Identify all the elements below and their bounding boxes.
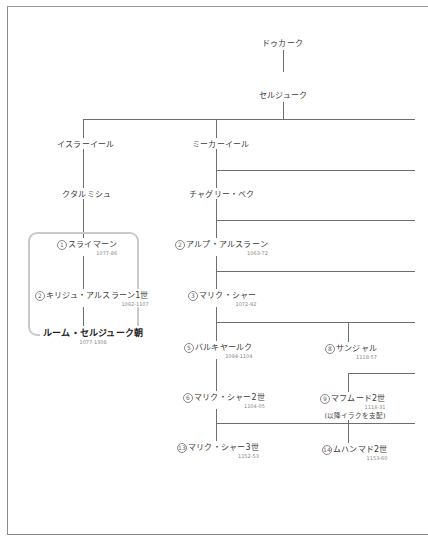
node-malik-shah-3: 13マリク・シャー3世 1152-53 <box>177 441 259 459</box>
node-malik-shah-1: 3マリク・シャー 1072-92 <box>188 289 256 307</box>
reign-years: 1118-57 <box>325 354 377 360</box>
node-name: ムハンマド2世 <box>333 445 388 454</box>
node-name: マリク・シャー <box>199 291 256 300</box>
node-alp-arslan: 2アルプ・アルスラーン 1063-72 <box>175 238 268 256</box>
line-sanjar <box>348 322 349 342</box>
node-name: マフムード2世 <box>331 394 386 403</box>
node-israil: イスラーイール <box>57 138 114 149</box>
node-name: クタルミシュ <box>62 188 111 199</box>
reign-years: 1094-1104 <box>184 353 252 359</box>
dynasty-years: 1077-1308 <box>43 339 143 345</box>
node-chaghri: チャグリー・ベク <box>189 188 255 199</box>
dynasty-name: ルーム・セルジューク朝 <box>43 326 143 339</box>
node-name: ドゥカーク <box>262 37 303 48</box>
node-barkiyaruq: 5バルキヤールク 1094-1104 <box>184 341 252 359</box>
node-name: スライマーン <box>68 240 117 249</box>
node-name: セルジューク <box>259 89 307 100</box>
ruler-number-badge: 13 <box>177 443 187 453</box>
ruler-number-badge: 2 <box>35 291 45 301</box>
reign-years: 1152-53 <box>177 453 259 459</box>
reign-years: 1104-05 <box>183 403 265 409</box>
node-seljuk: セルジューク <box>259 89 307 100</box>
ruler-number-badge: 8 <box>325 344 335 354</box>
reign-years: 1072-92 <box>188 301 256 307</box>
ruler-number-badge: 1 <box>57 240 67 250</box>
line-branch-3 <box>216 271 415 272</box>
node-qutalmish: クタルミシュ <box>62 188 111 199</box>
line-seljuk-down <box>283 102 284 120</box>
node-name: サンジャル <box>336 344 377 353</box>
line-seljuk-sons <box>83 119 415 120</box>
line-branch-2 <box>216 220 415 221</box>
node-name: マリク・シャー2世 <box>194 393 265 402</box>
reign-years: 1153-60 <box>322 455 388 461</box>
rule-note: (以降イラクを支配) <box>320 410 386 420</box>
node-mikail: ミーカーイール <box>192 138 249 149</box>
node-name: イスラーイール <box>57 138 114 149</box>
ruler-number-badge: 9 <box>320 394 330 404</box>
node-rum-seljuk: ルーム・セルジューク朝 1077-1308 <box>40 326 146 345</box>
node-name: アルプ・アルスラーン <box>186 240 268 249</box>
line-mahmud <box>348 373 349 393</box>
line-branch-6 <box>216 423 415 424</box>
reign-years: 1077-86 <box>57 250 117 256</box>
ruler-number-badge: 5 <box>184 343 194 353</box>
line-duqaq-seljuk <box>283 50 284 72</box>
line-branch-4 <box>216 322 415 323</box>
node-muhammad-2: 14ムハンマド2世 1153-60 <box>322 443 388 461</box>
node-name: チャグリー・ベク <box>189 188 255 199</box>
node-mahmud-2: 9マフムード2世 1118-31 (以降イラクを支配) <box>320 392 386 420</box>
node-suleyman: 1スライマーン 1077-86 <box>57 238 117 256</box>
reign-years: 1063-72 <box>175 250 268 256</box>
line-branch-5 <box>348 373 415 374</box>
node-name: ミーカーイール <box>192 138 249 149</box>
node-name: マリク・シャー3世 <box>188 443 259 452</box>
reign-years: 1092-1107 <box>35 301 149 307</box>
node-sanjar: 8サンジャル 1118-57 <box>325 342 377 360</box>
ruler-number-badge: 6 <box>183 393 193 403</box>
line-branch-1 <box>216 170 415 171</box>
ruler-number-badge: 3 <box>188 291 198 301</box>
ruler-number-badge: 14 <box>322 445 332 455</box>
node-duqaq: ドゥカーク <box>262 37 303 48</box>
ruler-number-badge: 2 <box>175 240 185 250</box>
node-name: バルキヤールク <box>195 343 252 352</box>
node-kilij: 2キリジュ・アルスラーン1世 1092-1107 <box>35 289 149 307</box>
node-malik-shah-2: 6マリク・シャー2世 1104-05 <box>183 391 265 409</box>
node-name: キリジュ・アルスラーン1世 <box>46 291 149 300</box>
